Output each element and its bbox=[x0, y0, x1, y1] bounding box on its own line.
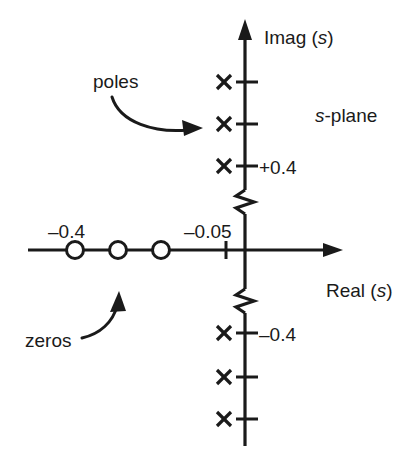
poles-callout-arrow bbox=[112, 97, 203, 136]
figure-canvas: Imag (s) Real (s) s-plane +0.4 –0.4 –0.4… bbox=[0, 0, 417, 462]
s-plane-label: s-plane bbox=[315, 105, 377, 126]
pole-marker bbox=[217, 412, 231, 426]
poles-arrowhead-icon bbox=[182, 120, 203, 136]
axis-break-lower-icon bbox=[236, 289, 254, 313]
pole-marker bbox=[217, 117, 231, 131]
zeros-callout-arrow bbox=[82, 291, 126, 338]
zero-marker bbox=[67, 242, 84, 259]
s-plane-pole-zero-figure: Imag (s) Real (s) s-plane +0.4 –0.4 –0.4… bbox=[0, 0, 417, 462]
zero-marker bbox=[153, 242, 170, 259]
zeros-annotation-label: zeros bbox=[25, 330, 71, 351]
tick-label-imag-negative: –0.4 bbox=[259, 324, 296, 345]
imag-axis-label: Imag (s) bbox=[264, 27, 334, 48]
real-axis-label: Real (s) bbox=[326, 280, 393, 301]
pole-marker bbox=[217, 159, 231, 173]
zero-markers bbox=[67, 242, 170, 259]
tick-label-real-left: –0.4 bbox=[48, 221, 85, 242]
tick-label-imag-positive: +0.4 bbox=[259, 157, 297, 178]
tick-label-real-near-origin: –0.05 bbox=[184, 221, 232, 242]
real-axis-arrowhead-icon bbox=[323, 243, 343, 257]
poles-annotation-label: poles bbox=[93, 71, 138, 92]
pole-marker bbox=[217, 326, 231, 340]
pole-marker bbox=[217, 75, 231, 89]
axis-break-upper-icon bbox=[236, 190, 254, 214]
zero-marker bbox=[110, 242, 127, 259]
zeros-arrowhead-icon bbox=[110, 291, 126, 312]
imag-axis-arrowhead-icon bbox=[238, 19, 252, 40]
pole-marker bbox=[217, 370, 231, 384]
